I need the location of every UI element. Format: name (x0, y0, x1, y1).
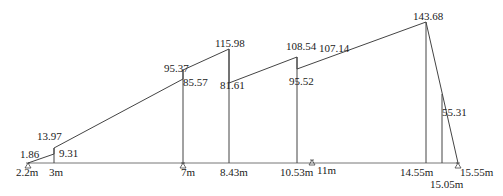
value-label: 9.31 (59, 147, 78, 159)
position-label: 7m (181, 166, 196, 178)
value-label: 95.52 (289, 75, 314, 87)
position-label: 15.55m (460, 166, 494, 178)
value-label: 115.98 (215, 37, 245, 49)
value-label: 143.68 (413, 10, 444, 22)
moment-diagram: 1.86 13.97 9.31 95.37 85.57 115.98 81.61… (0, 0, 503, 196)
value-label: 108.54 (286, 40, 317, 52)
value-label: 81.61 (220, 79, 245, 91)
position-label: 8.43m (220, 166, 248, 178)
value-label: 85.57 (183, 76, 208, 88)
value-label: 1.86 (20, 148, 40, 160)
value-label: 107.14 (319, 42, 350, 54)
position-label: 14.55m (400, 166, 434, 178)
position-label: 3m (49, 166, 64, 178)
value-label: 95.37 (164, 62, 189, 74)
position-label: 15.05m (430, 178, 464, 190)
value-label: 55.31 (442, 106, 467, 118)
position-label: 10.53m (280, 166, 314, 178)
value-label: 13.97 (37, 130, 62, 142)
position-label: 11m (317, 164, 337, 176)
position-label: 2.2m (16, 166, 39, 178)
